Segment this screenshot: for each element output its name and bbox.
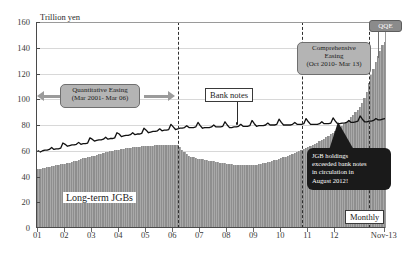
x-tick-label-09: 09: [249, 231, 258, 240]
x-tick-mark-11: [307, 228, 308, 232]
annotation-qqe-badge: QQE: [369, 20, 402, 32]
x-tick-label-01: 01: [33, 231, 42, 240]
x-tick-mark-10: [280, 228, 281, 232]
x-tick-mark-03: [91, 228, 92, 232]
x-tick-mark-09: [253, 228, 254, 232]
jgb-line-1: JGB holdings: [312, 152, 386, 160]
jgb-line-3: in circulation in: [312, 168, 386, 176]
x-tick-label-05: 05: [141, 231, 150, 240]
label-bank-notes: Bank notes: [205, 88, 253, 102]
y-tick-label-120: 120: [0, 70, 30, 79]
y-tick-label-20: 20: [0, 198, 30, 207]
y-tick-label-40: 40: [0, 173, 30, 182]
x-tick-mark-02: [64, 228, 65, 232]
plot-border-right: [385, 22, 386, 228]
x-tick-label-02: 02: [60, 231, 69, 240]
x-tick-label-11: 11: [303, 231, 311, 240]
event-line-mar-2006: [178, 22, 179, 228]
qe-line-2: (Mar 2001- Mar 06): [65, 95, 135, 103]
x-tick-label-Nov-13: Nov-13: [371, 231, 397, 240]
annotation-quantitative-easing: Quantitative Easing (Mar 2001- Mar 06): [60, 84, 140, 108]
x-tick-label-08: 08: [222, 231, 231, 240]
label-monthly: Monthly: [345, 210, 384, 224]
x-tick-mark-07: [199, 228, 200, 232]
y-axis-title: Trillion yen: [40, 12, 80, 22]
x-tick-label-07: 07: [195, 231, 204, 240]
x-tick-mark-01: [37, 228, 38, 232]
bank-notes-leader-line: [237, 102, 238, 123]
x-tick-mark-05: [145, 228, 146, 232]
y-tick-mark-80: [36, 125, 40, 126]
annotation-jgb-exceeded: JGB holdings exceeded bank notes in circ…: [307, 148, 391, 190]
callout-tail: [329, 122, 354, 150]
y-tick-mark-160: [36, 22, 40, 23]
x-tick-label-04: 04: [114, 231, 123, 240]
y-tick-mark-40: [36, 177, 40, 178]
qe-arrow-left-bar: [44, 95, 60, 98]
x-tick-mark-06: [172, 228, 173, 232]
qqe-text: QQE: [378, 22, 392, 30]
plot-border-top: [36, 22, 385, 23]
bank-notes-text: Bank notes: [210, 90, 248, 100]
x-tick-label-12: 12: [330, 231, 339, 240]
x-tick-mark-12: [334, 228, 335, 232]
y-tick-label-0: 0: [0, 224, 30, 233]
x-tick-mark-08: [226, 228, 227, 232]
bank-notes-leader-dot: [236, 122, 239, 125]
qe-arrow-right-bar: [144, 95, 168, 98]
qqe-stem-line: [378, 32, 379, 58]
x-tick-label-10: 10: [276, 231, 285, 240]
label-long-term-jgbs: Long-term JGBs: [63, 192, 136, 203]
y-tick-mark-20: [36, 202, 40, 203]
y-tick-label-60: 60: [0, 147, 30, 156]
y-tick-label-80: 80: [0, 121, 30, 130]
jgb-line-2: exceeded bank notes: [312, 160, 386, 168]
x-tick-label-03: 03: [87, 231, 96, 240]
y-tick-mark-60: [36, 151, 40, 152]
x-tick-mark-04: [118, 228, 119, 232]
y-tick-label-160: 160: [0, 18, 30, 27]
chart-root: Trillion yen 020406080100120140160 01020…: [0, 0, 410, 260]
qe-arrow-left-head: [37, 91, 44, 101]
y-tick-mark-120: [36, 74, 40, 75]
y-tick-label-140: 140: [0, 44, 30, 53]
jgb-line-4: August 2012!: [312, 177, 386, 185]
y-tick-label-100: 100: [0, 95, 30, 104]
x-tick-mark-Nov-13: [384, 228, 385, 232]
annotation-comprehensive-easing: Comprehensive Easing (Oct 2010- Mar 13): [297, 42, 371, 75]
long-term-jgbs-text: Long-term JGBs: [66, 192, 133, 203]
monthly-text: Monthly: [350, 212, 379, 222]
y-tick-mark-140: [36, 48, 40, 49]
ce-line-3: (Oct 2010- Mar 13): [302, 61, 366, 69]
qe-arrow-right-head: [168, 91, 175, 101]
x-tick-label-06: 06: [168, 231, 177, 240]
